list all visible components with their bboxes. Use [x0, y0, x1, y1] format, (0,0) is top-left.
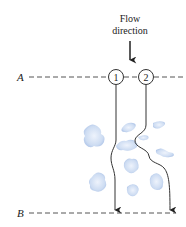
- particle: [127, 184, 139, 196]
- flow-path-2: [135, 84, 170, 210]
- particle: [138, 135, 149, 140]
- soil-particles: [84, 121, 174, 196]
- path-1-label: 1: [114, 72, 119, 83]
- particle: [116, 140, 138, 151]
- particle: [89, 173, 106, 192]
- line-b-label: B: [17, 207, 24, 219]
- particle: [84, 124, 105, 147]
- flow-label-line1: Flow: [120, 13, 141, 24]
- line-a-label: A: [16, 71, 24, 83]
- flow-path-1: [111, 84, 116, 210]
- particle: [156, 149, 174, 158]
- flow-path-diagram: A B Flow direction 1 2: [0, 0, 186, 227]
- particle: [153, 121, 165, 128]
- particle: [121, 123, 135, 132]
- particle: [124, 159, 139, 174]
- path-2-label: 2: [144, 72, 149, 83]
- particle: [150, 173, 164, 190]
- flow-label-line2: direction: [112, 25, 148, 36]
